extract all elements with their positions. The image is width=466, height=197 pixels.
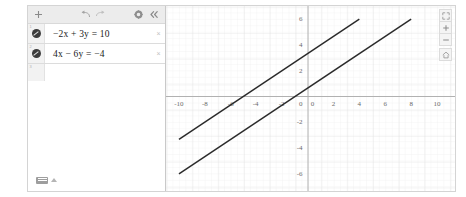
svg-text:6: 6 xyxy=(299,15,303,23)
calculator-screenshot: 1 −2x + 3y = 10 × 2 4x − 6y = −4 xyxy=(0,0,466,197)
home-button[interactable] xyxy=(439,48,452,61)
expression-text: 4x − 6y = −4 xyxy=(53,49,105,59)
redo-arrow-icon xyxy=(95,10,106,19)
graph-panel[interactable]: -10 -8 -6 -4 -2 0 2 4 6 8 10 6 4 2 xyxy=(166,6,455,191)
expression-color-swatch[interactable] xyxy=(32,49,41,58)
redo-button[interactable] xyxy=(93,6,107,23)
settings-button[interactable] xyxy=(131,6,145,23)
expression-row-index: 2 xyxy=(30,44,32,49)
keyboard-toggle-button[interactable] xyxy=(36,177,57,184)
zoom-in-icon xyxy=(442,24,450,32)
svg-text:4: 4 xyxy=(299,41,303,49)
calculator-frame: 1 −2x + 3y = 10 × 2 4x − 6y = −4 xyxy=(27,5,456,192)
expression-panel: 1 −2x + 3y = 10 × 2 4x − 6y = −4 xyxy=(28,6,166,191)
svg-text:-4: -4 xyxy=(253,100,259,108)
expression-row-gutter: 2 xyxy=(28,44,45,63)
svg-text:10: 10 xyxy=(434,100,441,108)
expression-math-field[interactable]: −2x + 3y = 10 xyxy=(45,29,152,39)
svg-text:0: 0 xyxy=(311,100,315,108)
expression-toolbar xyxy=(28,6,165,24)
undo-button[interactable] xyxy=(78,6,92,23)
expression-list: 1 −2x + 3y = 10 × 2 4x − 6y = −4 xyxy=(28,24,165,191)
caret-up-icon xyxy=(51,178,57,182)
collapse-panel-button[interactable] xyxy=(147,6,161,23)
expression-row-index: 1 xyxy=(30,24,32,29)
svg-text:-6: -6 xyxy=(297,170,303,178)
zoom-out-icon xyxy=(442,36,450,44)
undo-arrow-icon xyxy=(80,10,91,19)
expression-row-empty[interactable]: 3 xyxy=(28,64,165,81)
keyboard-icon xyxy=(36,177,48,184)
svg-text:-8: -8 xyxy=(202,100,208,108)
zoom-fit-icon xyxy=(442,12,450,20)
svg-text:0: 0 xyxy=(299,100,303,108)
svg-text:8: 8 xyxy=(409,100,413,108)
svg-text:6: 6 xyxy=(383,100,387,108)
delete-expression-button[interactable]: × xyxy=(152,50,165,57)
svg-text:2: 2 xyxy=(299,67,303,75)
graph-controls xyxy=(439,9,452,61)
expression-math-field[interactable]: 4x − 6y = −4 xyxy=(45,49,152,59)
svg-text:-4: -4 xyxy=(297,144,303,152)
double-chevron-left-icon xyxy=(149,10,159,19)
expression-row-gutter: 1 xyxy=(28,24,45,43)
svg-text:-2: -2 xyxy=(297,118,303,126)
panel-footer xyxy=(28,173,165,187)
gear-icon xyxy=(134,10,143,19)
expression-row[interactable]: 1 −2x + 3y = 10 × xyxy=(28,24,165,44)
home-icon xyxy=(442,51,450,59)
add-expression-button[interactable] xyxy=(30,6,46,23)
expression-row[interactable]: 2 4x − 6y = −4 × xyxy=(28,44,165,64)
graph-canvas[interactable]: -10 -8 -6 -4 -2 0 2 4 6 8 10 6 4 2 xyxy=(166,6,455,191)
expression-row-index: 3 xyxy=(30,64,32,69)
delete-expression-button[interactable]: × xyxy=(152,30,165,37)
expression-text: −2x + 3y = 10 xyxy=(53,29,110,39)
expression-color-swatch[interactable] xyxy=(32,29,41,38)
svg-text:4: 4 xyxy=(358,100,362,108)
plus-icon xyxy=(34,10,43,19)
svg-text:2: 2 xyxy=(332,100,336,108)
expression-row-gutter: 3 xyxy=(28,64,45,81)
svg-text:-10: -10 xyxy=(174,100,184,108)
